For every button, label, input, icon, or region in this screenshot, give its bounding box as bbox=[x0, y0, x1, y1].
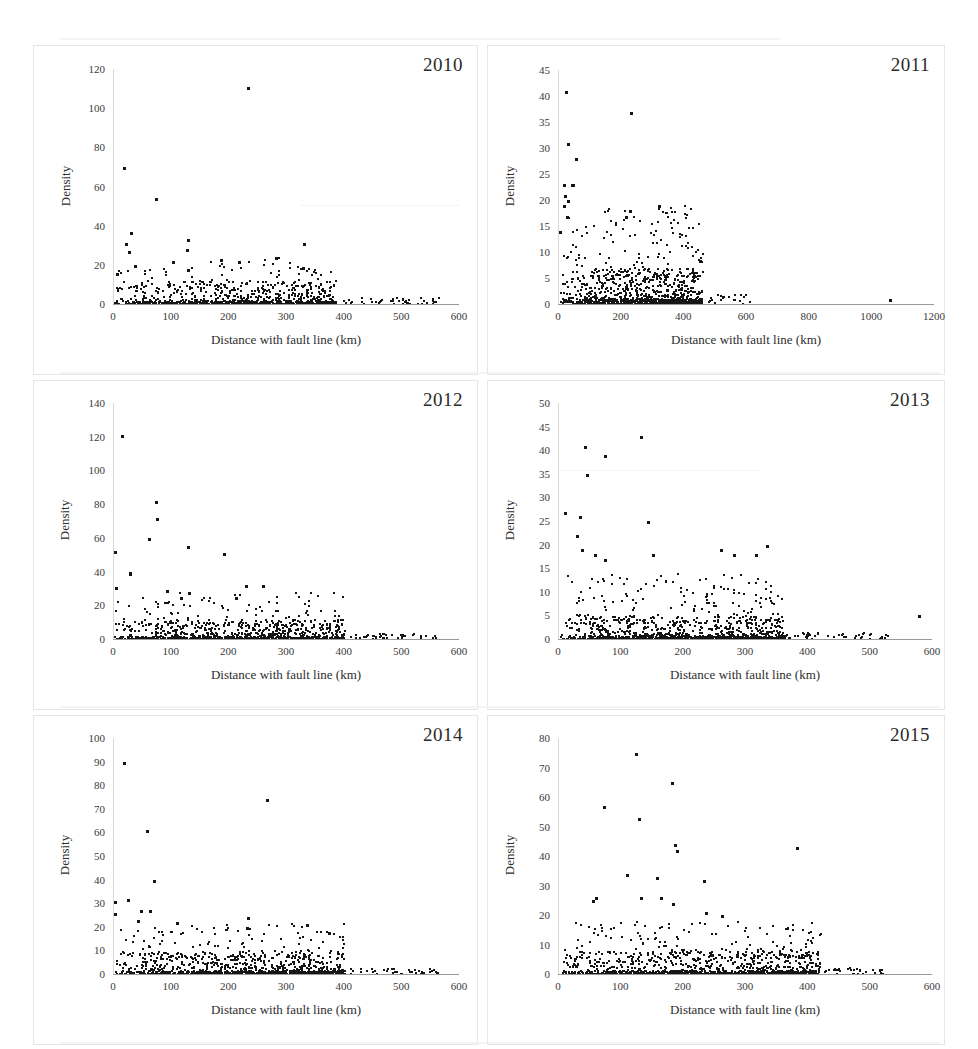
data-point bbox=[320, 274, 322, 276]
data-point bbox=[649, 279, 651, 281]
data-point bbox=[243, 956, 245, 958]
x-axis-title: Distance with fault line (km) bbox=[558, 332, 934, 348]
data-point bbox=[130, 286, 132, 288]
scan-artifact bbox=[60, 706, 940, 708]
chart-panel-2012: 2012020406080100120140010020030040050060… bbox=[33, 380, 478, 710]
data-point bbox=[599, 292, 601, 294]
y-tick-label: 60 bbox=[94, 181, 105, 193]
data-point bbox=[598, 277, 600, 279]
data-point bbox=[671, 211, 673, 213]
y-tick-label: 45 bbox=[539, 421, 550, 433]
data-point bbox=[594, 928, 596, 930]
data-point bbox=[342, 619, 344, 621]
data-point bbox=[615, 222, 617, 224]
data-point bbox=[253, 293, 255, 295]
data-point bbox=[570, 957, 572, 959]
data-point bbox=[681, 626, 683, 628]
data-point bbox=[215, 294, 217, 296]
data-point bbox=[680, 587, 682, 589]
data-point bbox=[360, 971, 362, 973]
data-point bbox=[731, 971, 733, 973]
data-point bbox=[195, 283, 197, 285]
data-point bbox=[584, 636, 586, 638]
data-point bbox=[252, 629, 254, 631]
data-point bbox=[633, 632, 635, 634]
data-point bbox=[245, 622, 247, 624]
data-point bbox=[637, 958, 639, 960]
data-point bbox=[585, 226, 587, 228]
data-point bbox=[789, 935, 791, 937]
data-point bbox=[614, 632, 616, 634]
data-point bbox=[276, 276, 278, 278]
data-point bbox=[658, 253, 660, 255]
data-point bbox=[740, 957, 742, 959]
data-point bbox=[605, 609, 607, 611]
data-point bbox=[604, 211, 606, 213]
scan-artifact bbox=[560, 470, 760, 471]
data-point bbox=[156, 636, 158, 638]
x-tick-label: 400 bbox=[799, 980, 816, 992]
data-point bbox=[722, 967, 724, 969]
data-point bbox=[746, 948, 748, 950]
data-point bbox=[828, 969, 830, 971]
x-axis-title: Distance with fault line (km) bbox=[113, 667, 459, 683]
data-point bbox=[595, 268, 597, 270]
data-point bbox=[183, 964, 185, 966]
data-point bbox=[589, 587, 591, 589]
data-point bbox=[684, 205, 686, 207]
data-point bbox=[672, 903, 675, 906]
data-point bbox=[174, 942, 176, 944]
data-point bbox=[374, 970, 376, 972]
data-point bbox=[841, 634, 843, 636]
data-point bbox=[187, 617, 189, 619]
data-point bbox=[263, 933, 265, 935]
data-point bbox=[566, 293, 568, 295]
data-point bbox=[289, 622, 291, 624]
data-point bbox=[772, 925, 774, 927]
data-point bbox=[280, 963, 282, 965]
data-point bbox=[219, 295, 221, 297]
data-point bbox=[672, 964, 674, 966]
data-point bbox=[283, 946, 285, 948]
data-point bbox=[812, 937, 814, 939]
data-point bbox=[676, 936, 678, 938]
data-point bbox=[320, 931, 322, 933]
data-point bbox=[620, 292, 622, 294]
data-point bbox=[768, 635, 770, 637]
data-point bbox=[640, 938, 642, 940]
data-point bbox=[677, 938, 679, 940]
data-point bbox=[172, 604, 174, 606]
data-point bbox=[647, 298, 649, 300]
data-point bbox=[566, 625, 568, 627]
data-point bbox=[603, 600, 605, 602]
data-point bbox=[132, 941, 134, 943]
data-point bbox=[751, 608, 753, 610]
data-point bbox=[227, 624, 229, 626]
scan-artifact bbox=[60, 38, 780, 40]
data-point bbox=[566, 954, 568, 956]
data-point bbox=[142, 597, 144, 599]
data-point bbox=[208, 623, 210, 625]
data-point bbox=[659, 277, 661, 279]
data-point bbox=[811, 966, 813, 968]
data-point bbox=[122, 300, 124, 302]
data-point bbox=[261, 610, 263, 612]
data-point bbox=[315, 632, 317, 634]
data-point bbox=[743, 296, 745, 298]
data-point bbox=[604, 282, 606, 284]
data-point bbox=[630, 285, 632, 287]
data-point bbox=[341, 954, 343, 956]
data-point bbox=[802, 957, 804, 959]
data-point bbox=[739, 300, 741, 302]
data-point bbox=[765, 588, 767, 590]
data-point bbox=[572, 278, 574, 280]
data-point bbox=[671, 949, 673, 951]
data-point bbox=[237, 629, 239, 631]
data-point bbox=[576, 947, 578, 949]
plot-area bbox=[113, 738, 459, 974]
data-point bbox=[581, 265, 583, 267]
x-tick-label: 600 bbox=[451, 645, 468, 657]
data-point bbox=[785, 954, 787, 956]
data-point bbox=[674, 971, 676, 973]
data-point bbox=[338, 968, 340, 970]
